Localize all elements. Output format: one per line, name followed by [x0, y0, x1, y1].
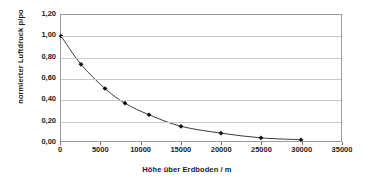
plot-area [60, 14, 342, 142]
x-axis-tick-label: 0 [58, 146, 62, 154]
data-point-marker [147, 112, 152, 117]
x-axis-title: Höhe über Erdboden / m [0, 165, 374, 174]
y-axis-tick-label: 0,80 [30, 53, 56, 61]
y-axis-title: normierter Luftdruck p/po [16, 0, 25, 122]
y-axis-tick-label: 0,60 [30, 74, 56, 82]
x-axis-tick-label: 35000 [332, 146, 353, 154]
x-axis-tick-label: 30000 [291, 146, 312, 154]
x-axis-tick-labels: 05000100001500020000250003000035000 [0, 146, 374, 158]
y-axis-tick-label: 0,40 [30, 96, 56, 104]
data-point-marker [179, 124, 184, 129]
data-point-marker [219, 131, 224, 136]
data-point-marker [123, 101, 128, 106]
data-point-marker [259, 135, 264, 140]
gridline-horizontal [61, 36, 341, 37]
chart-container: normierter Luftdruck p/po 0,000,200,400,… [0, 0, 374, 184]
y-axis-tick-label: 1,20 [30, 10, 56, 18]
gridline-horizontal [61, 58, 341, 59]
y-axis-tick-label: 0,20 [30, 117, 56, 125]
y-axis-tick-label: 0,00 [30, 138, 56, 146]
y-axis-tick-label: 1,00 [30, 32, 56, 40]
x-axis-tick-label: 5000 [92, 146, 109, 154]
x-axis-tick-label: 25000 [251, 146, 272, 154]
y-axis-tick-labels: 0,000,200,400,600,801,001,20 [30, 14, 56, 142]
x-axis-tick-label: 20000 [211, 146, 232, 154]
x-axis-tick-label: 10000 [130, 146, 151, 154]
gridline-horizontal [61, 79, 341, 80]
x-axis-tick-label: 15000 [170, 146, 191, 154]
gridline-horizontal [61, 122, 341, 123]
gridline-horizontal [61, 100, 341, 101]
